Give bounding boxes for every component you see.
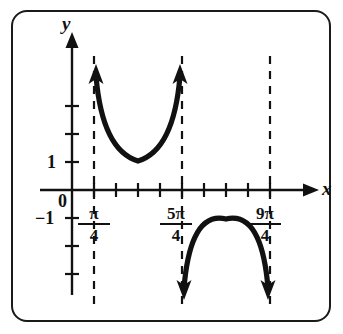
x-tick-9pi-over-4-numerator: 9π: [243, 205, 287, 223]
origin-label: 0: [58, 192, 67, 210]
fraction-bar: [160, 223, 192, 225]
x-tick-9pi-over-4-denominator: 4: [243, 226, 287, 244]
x-tick-label-pi-over-4: π 4: [72, 205, 116, 244]
x-tick-5pi-over-4-numerator: 5π: [154, 205, 198, 223]
y-axis-label: y: [62, 14, 70, 33]
figure-container: y x 0 1 −1 π 4 5π 4 9π 4: [0, 0, 343, 334]
x-axis: [40, 184, 319, 197]
x-tick-pi-over-4-denominator: 4: [72, 226, 116, 244]
y-axis: [66, 32, 79, 295]
x-tick-pi-over-4-numerator: π: [72, 205, 116, 223]
y-tick-label-1: 1: [47, 153, 56, 171]
x-tick-5pi-over-4-denominator: 4: [154, 226, 198, 244]
asymptote-lines: [94, 56, 270, 308]
x-axis-label: x: [322, 179, 332, 198]
fraction-bar: [249, 223, 281, 225]
y-tick-label-neg1: −1: [35, 209, 54, 227]
curve-upper-branch: [89, 64, 188, 161]
x-tick-label-9pi-over-4: 9π 4: [243, 205, 287, 244]
x-tick-label-5pi-over-4: 5π 4: [154, 205, 198, 244]
fraction-bar: [78, 223, 110, 225]
